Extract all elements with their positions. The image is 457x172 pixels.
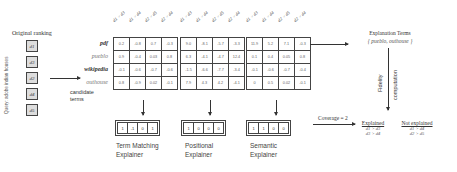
cell: -0.3 (295, 38, 311, 51)
column-headers-3: d1 > d3 d1 > d4 d2 > d5 d2 > d4 (246, 0, 316, 38)
cell: 0.05 (279, 51, 295, 64)
explanation-terms-title: Explanation Terms (350, 30, 430, 36)
cell: 7.1 (279, 38, 295, 51)
column-header: d1 > d3 (112, 10, 126, 23)
candidate-line: candidate (70, 89, 94, 96)
explained-pair: d3 > d4 (356, 131, 390, 136)
term-wikipedia: wikipedia (68, 66, 108, 72)
cell: 12.4 (229, 51, 245, 64)
arrow-right-icon (313, 124, 355, 125)
cell: -0.6 (130, 64, 146, 77)
vector-cell: 0 (269, 123, 279, 134)
cell: -1.5 (181, 64, 197, 77)
label-line: Explainer (116, 150, 159, 159)
positional-matrix: 9.0-8.1-5.7-3.3 6.3-4.1-4.712.4 -1.5-6.6… (180, 37, 245, 90)
column-header: d2 > d5 (211, 10, 225, 23)
term-outhouse: outhouse (68, 79, 108, 85)
candidate-terms-label: candidate terms (70, 89, 94, 103)
arrow-down-icon (210, 100, 211, 115)
vector-cell: 1 (259, 123, 269, 134)
cell: -8.1 (197, 38, 213, 51)
column-header: d1 > d4 (128, 10, 142, 23)
term-pueblo: pueblo (68, 53, 108, 59)
positional-explainer-label: Positional Explainer (185, 141, 213, 159)
term-pdf: pdf (68, 40, 108, 46)
cell: 6.3 (181, 51, 197, 64)
vector-cell: 0 (279, 123, 289, 134)
cell: -4.1 (197, 51, 213, 64)
cell: 0.03 (146, 51, 162, 64)
doc-box: d5 (26, 104, 38, 116)
vector-cell: 0 (194, 123, 204, 134)
explained-column: Explained d1 > d3 d3 > d4 (356, 120, 390, 136)
cell: -0.7 (146, 64, 162, 77)
term-matching-explainer-label: Term Matching Explainer (116, 141, 159, 159)
cell: -0.9 (130, 77, 146, 90)
arrow-right-icon (310, 44, 348, 45)
cell: 0.02 (279, 77, 295, 90)
candidate-line: terms (70, 96, 94, 103)
cell: 7.9 (181, 77, 197, 90)
explanation-terms-value: { pueblo, outhouse } (350, 38, 430, 44)
label-line: Term Matching (116, 141, 159, 150)
column-header: d2 > d4 (160, 10, 174, 23)
vector-cell: 0 (138, 123, 148, 134)
label-line: Explainer (250, 150, 277, 159)
cell: 9.0 (181, 38, 197, 51)
column-headers-2: d1 > d3 d1 > d4 d2 > d5 d2 > d4 (180, 0, 250, 38)
cell: 0.02 (146, 77, 162, 90)
cell: -7.7 (213, 64, 229, 77)
cell: 0.1 (247, 51, 263, 64)
cell: -0.3 (162, 38, 178, 51)
computation-label: computation (392, 70, 398, 100)
column-header: d2 > d5 (277, 10, 291, 23)
cell: 0.8 (114, 77, 130, 90)
fidelity-label: Fidelity (377, 75, 383, 92)
doc-box: d1 (26, 40, 38, 52)
not-explained-column: Not explained d1 > d4 d2 > d5 (392, 120, 442, 136)
cell: -0.6 (263, 64, 279, 77)
vector-cell: 1 (118, 123, 128, 134)
doc-box: d3 (26, 56, 38, 68)
term-matching-matrix: 0.2-0.80.7-0.3 0.9-0.40.030.8 -0.1-0.6-0… (113, 37, 178, 90)
vector-cell: 1 (148, 123, 158, 134)
column-header: d2 > d4 (227, 10, 241, 23)
cell: 4.2 (213, 77, 229, 90)
cell: -6.6 (197, 64, 213, 77)
cell: -0.4 (295, 64, 311, 77)
cell: -4.1 (229, 77, 245, 90)
cell: -4.7 (213, 51, 229, 64)
original-ranking-title: Original ranking (12, 30, 52, 36)
cell: -0.1 (295, 77, 311, 90)
positional-vector: 1000 (181, 120, 226, 136)
column-header: d1 > d4 (261, 10, 275, 23)
label-line: Semantic (250, 141, 277, 150)
cell: -0.1 (247, 64, 263, 77)
cell: -0.1 (114, 64, 130, 77)
term-matching-vector: 1-101 (115, 120, 160, 136)
cell: 0.5 (263, 77, 279, 90)
cell: 0.8 (295, 51, 311, 64)
cell: 0.9 (114, 51, 130, 64)
cell: 0.4 (263, 51, 279, 64)
cell: -5.7 (213, 38, 229, 51)
vector-cell: 0 (204, 123, 214, 134)
coverage-label: Coverage = 2 (318, 115, 348, 121)
semantic-matrix: 11.95.27.1-0.3 0.10.40.050.8 -0.1-0.6-0.… (246, 37, 311, 90)
vector-cell: 1 (184, 123, 194, 134)
cell: -0.6 (162, 64, 178, 77)
label-line: Explainer (185, 150, 213, 159)
cell: -0.1 (162, 77, 178, 90)
cell: 5.2 (263, 38, 279, 51)
column-header: d1 > d3 (245, 10, 259, 23)
column-header: d2 > d5 (144, 10, 158, 23)
cell: 0.2 (114, 38, 130, 51)
cell: 0 (247, 77, 263, 90)
vector-cell: 0 (214, 123, 224, 134)
vector-cell: 1 (249, 123, 259, 134)
cell: 11.9 (247, 38, 263, 51)
cell: 0.8 (162, 51, 178, 64)
arrow-down-icon (143, 100, 144, 115)
cell: -3.4 (229, 64, 245, 77)
column-header: d1 > d4 (195, 10, 209, 23)
